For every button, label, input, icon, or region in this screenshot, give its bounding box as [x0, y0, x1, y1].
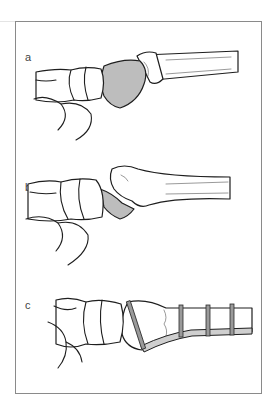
- page-rule: [0, 21, 15, 22]
- panel-b: b: [16, 147, 263, 272]
- illustration-a: [16, 22, 263, 147]
- panel-c: c: [16, 272, 263, 395]
- illustration-c: [16, 272, 263, 395]
- figure-frame: a b: [15, 21, 262, 394]
- panel-a: a: [16, 22, 263, 147]
- illustration-b: [16, 147, 263, 272]
